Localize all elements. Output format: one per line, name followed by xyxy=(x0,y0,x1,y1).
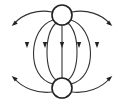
arrowhead-icon xyxy=(43,42,47,48)
field-line-open-bottom-right xyxy=(72,78,110,92)
field-line-outer-right xyxy=(71,20,91,84)
arrowhead-icon xyxy=(77,42,81,48)
arrowhead-icon xyxy=(60,42,64,48)
field-line-open-top-right xyxy=(72,11,110,24)
arrowhead-icon xyxy=(25,42,29,48)
field-line-diagram xyxy=(0,0,123,108)
field-line-open-top-left xyxy=(14,11,52,24)
field-line-outer-left xyxy=(33,20,53,84)
field-line-open-bottom-left xyxy=(14,78,52,92)
field-line-inner-left xyxy=(47,23,56,80)
top-charge xyxy=(52,5,72,25)
arrowhead-icon xyxy=(95,42,99,48)
field-line-inner-right xyxy=(68,23,77,80)
bottom-charge xyxy=(52,78,72,98)
